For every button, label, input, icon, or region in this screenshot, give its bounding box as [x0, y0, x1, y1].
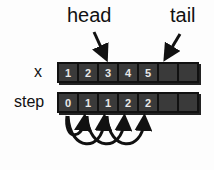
step-arcs-icon — [67, 116, 144, 144]
head-arrow-icon — [94, 32, 104, 54]
arrows-overlay — [0, 0, 214, 170]
tail-arrow-icon — [168, 34, 180, 54]
